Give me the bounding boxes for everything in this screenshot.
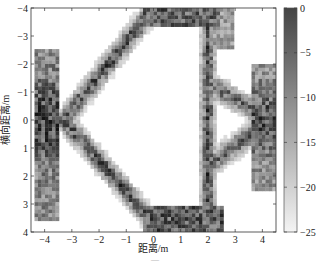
colorbar-tick-label: −5	[300, 47, 311, 58]
heatmap-figure: −4−3−2−101234 −4−3−2−101234 距离/m 横向距离/m …	[0, 0, 318, 264]
y-tick-label: −1	[17, 87, 28, 98]
x-axis-label: 距离/m	[138, 242, 169, 254]
x-tick-label: 2	[205, 234, 210, 245]
x-tick-label: 4	[260, 234, 265, 245]
x-tick-label: 1	[178, 234, 183, 245]
colorbar-tick-label: −15	[300, 137, 316, 148]
y-axis-label: 横向距离/m	[0, 95, 11, 146]
y-tick-label: 0	[23, 115, 28, 126]
colorbar-tick-label: 0	[300, 3, 305, 14]
y-tick-label: 1	[23, 143, 28, 154]
x-tick-label: −1	[121, 234, 132, 245]
y-tick-label: −3	[17, 31, 28, 42]
figure-caption-faded: —	[150, 255, 160, 264]
y-tick-label: 3	[23, 199, 28, 210]
x-tick-label: 3	[233, 234, 238, 245]
x-tick-label: −4	[39, 234, 50, 245]
colorbar-tick-label: −10	[300, 92, 316, 103]
colorbar-tick-label: −20	[300, 182, 316, 193]
y-tick-label: 4	[23, 227, 28, 238]
x-tick-label: −3	[67, 234, 78, 245]
y-tick-label: −4	[17, 3, 28, 14]
y-tick-label: −2	[17, 59, 28, 70]
y-tick-label: 2	[23, 171, 28, 182]
colorbar	[284, 8, 297, 232]
colorbar-tick-label: −25	[300, 227, 316, 238]
x-tick-label: −2	[94, 234, 105, 245]
heatmap-cells	[35, 8, 277, 232]
